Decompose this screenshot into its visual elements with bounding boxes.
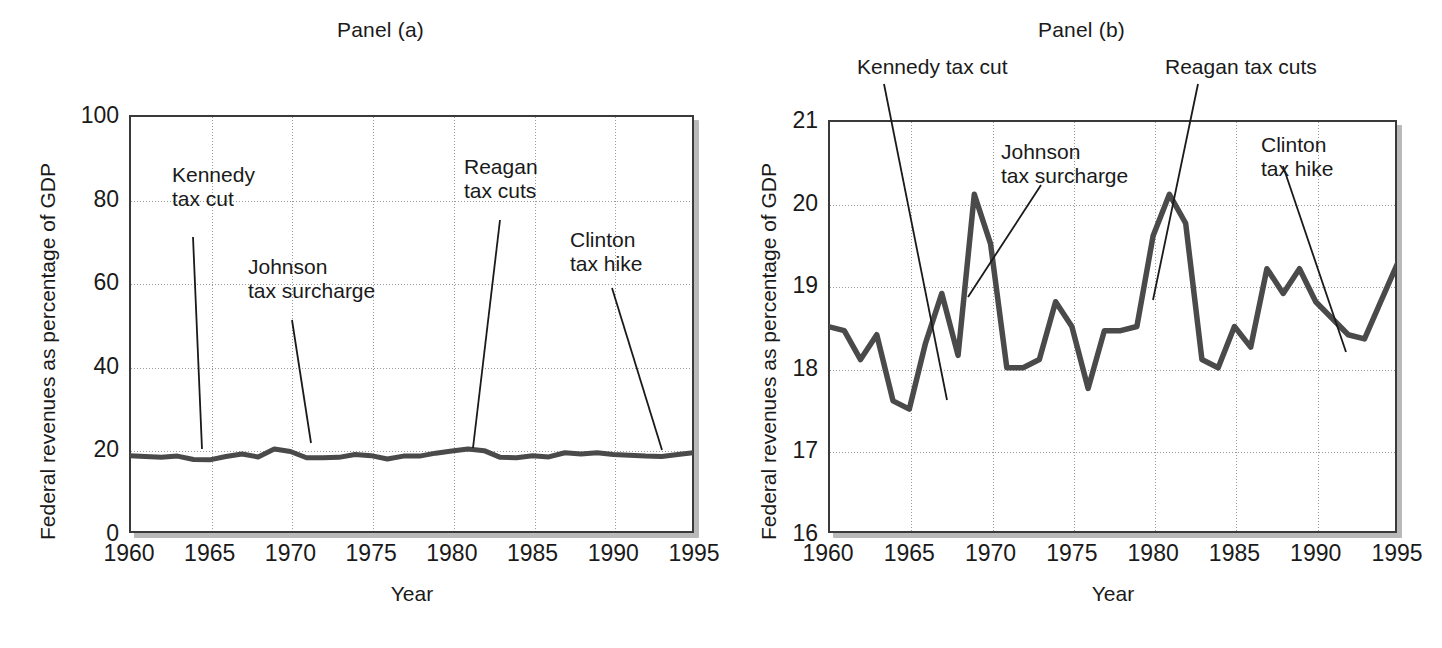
annotation-text-line: Johnson xyxy=(248,255,375,279)
gridline-horizontal xyxy=(131,451,692,452)
x-axis-tick-label: 1965 xyxy=(884,540,935,567)
panel-b-x-axis-label: Year xyxy=(828,582,1398,606)
x-axis-tick-label: 1965 xyxy=(184,540,235,567)
y-axis-tick-label: 80 xyxy=(93,185,119,212)
annotation-text-line: Johnson xyxy=(1001,140,1128,164)
panel-b-annotation-clinton: Clintontax hike xyxy=(1261,133,1333,182)
gridline-horizontal xyxy=(131,284,692,285)
x-axis-tick-label: 1960 xyxy=(802,540,853,567)
panel-a-x-axis-label: Year xyxy=(129,582,695,606)
x-axis-tick-label: 1975 xyxy=(346,540,397,567)
x-axis-tick-label: 1990 xyxy=(1290,540,1341,567)
annotation-text-line: Reagan tax cuts xyxy=(1165,55,1317,79)
gridline-vertical xyxy=(993,122,994,531)
panel-b-annotation-johnson: Johnsontax surcharge xyxy=(1001,140,1128,189)
annotation-text-line: Kennedy xyxy=(172,163,255,187)
panel-b-annotation-reagan: Reagan tax cuts xyxy=(1165,55,1317,79)
panel-a-title: Panel (a) xyxy=(0,18,741,42)
panel-a-annotation-clinton: Clintontax hike xyxy=(570,228,642,277)
x-axis-tick-label: 1980 xyxy=(426,540,477,567)
gridline-vertical xyxy=(911,122,912,531)
gridline-vertical xyxy=(1236,122,1237,531)
annotation-text-line: Reagan xyxy=(464,155,538,179)
gridline-vertical xyxy=(292,117,293,531)
panel-a-y-axis-label: Federal revenues as percentage of GDP xyxy=(36,163,60,540)
x-axis-tick-label: 1995 xyxy=(1371,540,1422,567)
y-axis-tick-label: 60 xyxy=(93,269,119,296)
gridline-horizontal xyxy=(830,370,1395,371)
gridline-horizontal xyxy=(131,368,692,369)
y-axis-tick-label: 20 xyxy=(93,436,119,463)
gridline-vertical xyxy=(1318,122,1319,531)
y-axis-tick-label: 17 xyxy=(792,437,818,464)
gridline-horizontal xyxy=(830,205,1395,206)
y-axis-tick-label: 19 xyxy=(792,272,818,299)
panel-a-annotation-johnson: Johnsontax surcharge xyxy=(248,255,375,304)
x-axis-tick-label: 1980 xyxy=(1128,540,1179,567)
annotation-text-line: tax cuts xyxy=(464,179,538,203)
annotation-text-line: tax cut xyxy=(172,187,255,211)
panel-a-annotation-kennedy: Kennedytax cut xyxy=(172,163,255,212)
y-axis-tick-label: 18 xyxy=(792,354,818,381)
panel-b-y-axis-label: Federal revenues as percentage of GDP xyxy=(757,163,781,540)
gridline-vertical xyxy=(1155,122,1156,531)
y-axis-tick-label: 20 xyxy=(792,189,818,216)
panel-a-annotation-reagan: Reagantax cuts xyxy=(464,155,538,204)
annotation-text-line: tax surcharge xyxy=(248,279,375,303)
gridline-vertical xyxy=(373,117,374,531)
x-axis-tick-label: 1985 xyxy=(507,540,558,567)
panel-a: Panel (a) Federal revenues as percentage… xyxy=(0,0,721,648)
x-axis-tick-label: 1995 xyxy=(668,540,719,567)
x-axis-tick-label: 1970 xyxy=(965,540,1016,567)
annotation-text-line: Clinton xyxy=(570,228,642,252)
y-axis-tick-label: 100 xyxy=(81,102,119,129)
figure-root: Panel (a) Federal revenues as percentage… xyxy=(0,0,1442,648)
panel-b-title: Panel (b) xyxy=(721,18,1442,42)
panel-b-annotation-kennedy: Kennedy tax cut xyxy=(857,55,1008,79)
x-axis-tick-label: 1960 xyxy=(103,540,154,567)
x-axis-tick-label: 1975 xyxy=(1046,540,1097,567)
panel-b: Panel (b) Federal revenues as percentage… xyxy=(721,0,1442,648)
gridline-horizontal xyxy=(830,452,1395,453)
y-axis-tick-label: 21 xyxy=(792,107,818,134)
gridline-horizontal xyxy=(830,287,1395,288)
annotation-text-line: tax surcharge xyxy=(1001,164,1128,188)
y-axis-tick-label: 40 xyxy=(93,352,119,379)
x-axis-tick-label: 1985 xyxy=(1209,540,1260,567)
x-axis-tick-label: 1970 xyxy=(265,540,316,567)
x-axis-tick-label: 1990 xyxy=(588,540,639,567)
annotation-text-line: tax hike xyxy=(570,252,642,276)
annotation-text-line: tax hike xyxy=(1261,157,1333,181)
annotation-text-line: Kennedy tax cut xyxy=(857,55,1008,79)
gridline-vertical xyxy=(615,117,616,531)
gridline-vertical xyxy=(454,117,455,531)
annotation-text-line: Clinton xyxy=(1261,133,1333,157)
